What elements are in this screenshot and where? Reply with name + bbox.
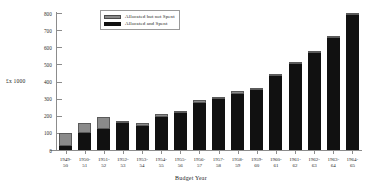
- bar-segment-unspent: [269, 74, 282, 76]
- bar: [174, 111, 187, 150]
- y-tick-label: 0: [49, 148, 52, 154]
- y-tick-mark: [56, 150, 62, 151]
- x-tick-mark: [352, 150, 353, 154]
- legend-label: Allocated but not Spent: [125, 14, 175, 19]
- bar-segment-spent: [250, 90, 263, 150]
- bar: [193, 100, 206, 150]
- x-tick-mark: [257, 150, 258, 154]
- y-tick-label: 100: [44, 130, 52, 136]
- x-tick-mark: [276, 150, 277, 154]
- x-tick-mark: [123, 150, 124, 154]
- legend-swatch: [104, 22, 121, 26]
- bar-segment-unspent: [308, 51, 321, 53]
- bar-segment-unspent: [97, 117, 110, 129]
- y-tick-label: 700: [44, 28, 52, 34]
- bar: [136, 123, 149, 150]
- bar-segment-spent: [212, 99, 225, 150]
- chart-legend: Allocated but not SpentAllocated and Spe…: [100, 10, 180, 30]
- bar: [78, 123, 91, 150]
- bar-segment-unspent: [155, 114, 168, 117]
- plot-area: [56, 13, 362, 150]
- y-tick-label: 800: [44, 11, 52, 17]
- bar-segment-spent: [193, 103, 206, 150]
- bar-segment-unspent: [193, 100, 206, 103]
- bar-segment-spent: [327, 38, 340, 150]
- bar: [346, 14, 359, 150]
- y-tick-label: 500: [44, 62, 52, 68]
- x-tick-mark: [333, 150, 334, 154]
- legend-item: Allocated but not Spent: [104, 13, 175, 20]
- x-tick-mark: [295, 150, 296, 154]
- bar: [308, 52, 321, 150]
- bar-segment-unspent: [327, 36, 340, 38]
- bar: [327, 37, 340, 150]
- bar-chart-figure: 0100200300400500600700800 £x 1000 1949-5…: [0, 0, 382, 194]
- bar: [231, 91, 244, 150]
- x-tick-mark: [66, 150, 67, 154]
- y-axis-title: £x 1000: [6, 78, 26, 84]
- x-tick-mark: [104, 150, 105, 154]
- bar-segment-unspent: [136, 123, 149, 126]
- bar-segment-spent: [231, 94, 244, 151]
- x-tick-mark: [314, 150, 315, 154]
- x-tick-mark: [219, 150, 220, 154]
- bar: [212, 97, 225, 150]
- bar-segment-unspent: [212, 97, 225, 100]
- x-tick-mark: [85, 150, 86, 154]
- x-tick-mark: [238, 150, 239, 154]
- legend-swatch: [104, 15, 121, 19]
- bar: [116, 122, 129, 150]
- bar-segment-spent: [308, 53, 321, 150]
- bar-segment-spent: [269, 76, 282, 150]
- bar: [59, 133, 72, 150]
- x-tick-mark: [142, 150, 143, 154]
- y-tick-label: 600: [44, 45, 52, 51]
- bar-segment-unspent: [116, 121, 129, 123]
- bar: [250, 88, 263, 150]
- bar-segment-unspent: [174, 111, 187, 114]
- x-tick-mark: [161, 150, 162, 154]
- x-axis-line: [50, 150, 362, 151]
- legend-label: Allocated and Spent: [125, 21, 167, 26]
- bar-segment-spent: [97, 129, 110, 150]
- bar-segment-unspent: [231, 91, 244, 94]
- bar: [289, 64, 302, 150]
- bar-segment-spent: [136, 126, 149, 150]
- x-tick-label: 1964-65: [341, 157, 363, 169]
- bar-segment-unspent: [78, 123, 91, 133]
- bar-segment-unspent: [346, 13, 359, 15]
- bar-segment-unspent: [59, 133, 72, 146]
- bar-segment-spent: [346, 15, 359, 150]
- bar: [269, 75, 282, 150]
- x-tick-mark: [180, 150, 181, 154]
- x-axis-title: Budget Year: [0, 175, 382, 181]
- bar: [97, 117, 110, 150]
- bar-segment-spent: [289, 64, 302, 150]
- bar-segment-spent: [116, 123, 129, 150]
- bar-segment-unspent: [250, 88, 263, 90]
- y-tick-label: 400: [44, 79, 52, 85]
- bar: [155, 114, 168, 150]
- bar-segment-spent: [155, 117, 168, 150]
- bar-segment-unspent: [289, 62, 302, 64]
- y-tick-label: 300: [44, 96, 52, 102]
- bar-segment-spent: [78, 133, 91, 150]
- legend-item: Allocated and Spent: [104, 20, 175, 27]
- bar-segment-spent: [174, 113, 187, 150]
- y-tick-label: 200: [44, 113, 52, 119]
- x-tick-mark: [199, 150, 200, 154]
